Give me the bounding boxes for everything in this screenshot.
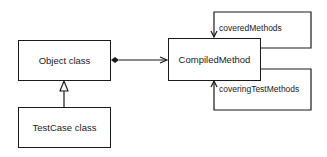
node-label: TestCase class <box>33 122 97 133</box>
diamond-icon <box>111 57 119 63</box>
object-class-node: Object class <box>18 40 111 81</box>
node-label: Object class <box>39 55 91 66</box>
covered-methods-label: coveredMethods <box>219 23 282 33</box>
covering-test-methods-label: coveringTestMethods <box>219 84 299 94</box>
compiled-method-node: CompiledMethod <box>168 38 261 81</box>
node-label: CompiledMethod <box>179 54 251 65</box>
testcase-class-node: TestCase class <box>18 107 111 148</box>
hollow-triangle-icon <box>60 81 68 91</box>
